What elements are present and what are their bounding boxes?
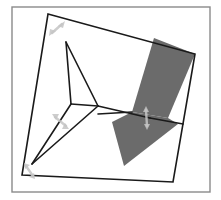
- double-arrow-icon[interactable]: [52, 114, 69, 129]
- line-node-b-to-bottom-left: [32, 106, 98, 164]
- shaded-region-lower: [112, 112, 178, 166]
- double-arrow-icon[interactable]: [49, 21, 65, 36]
- outer-frame: [12, 7, 210, 192]
- double-arrow-icon[interactable]: [24, 163, 35, 179]
- diagram-canvas: [0, 0, 221, 200]
- line-node-a-to-node-b: [71, 104, 98, 106]
- line-cross-left: [98, 112, 132, 114]
